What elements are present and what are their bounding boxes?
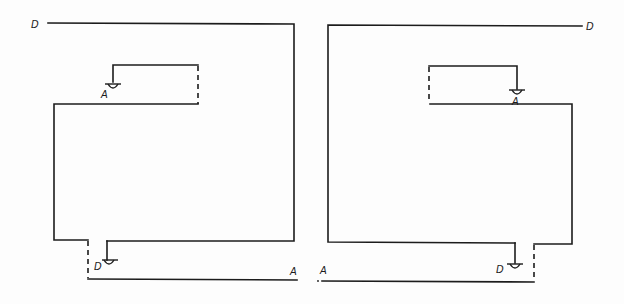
right-middle-path xyxy=(430,104,572,244)
label-left-bottom-symbol: D xyxy=(94,261,102,272)
label-right-bottom-symbol: D xyxy=(496,264,504,275)
right-figure: D A D A xyxy=(317,21,594,282)
ground-terminal-icon xyxy=(105,84,121,88)
right-outer-path xyxy=(328,25,582,243)
left-middle-path xyxy=(54,104,198,240)
junction-dot xyxy=(317,280,319,282)
left-outer-path xyxy=(48,23,294,241)
right-inner-path xyxy=(429,66,517,89)
label-right-top-end: D xyxy=(586,21,594,32)
left-bottom-line xyxy=(88,279,297,280)
left-figure: D A D A xyxy=(31,19,297,280)
wiring-diagram: D A D A D A D A xyxy=(0,0,624,304)
left-inner-path xyxy=(113,65,198,82)
label-right-inner-symbol: A xyxy=(511,96,519,107)
label-left-bottom-end: A xyxy=(289,266,297,277)
ground-terminal-icon xyxy=(509,90,525,94)
label-right-bottom-start: A xyxy=(319,265,327,276)
ground-terminal-icon xyxy=(102,260,118,264)
ground-terminal-icon xyxy=(507,264,523,268)
label-left-top-start: D xyxy=(31,19,39,30)
right-bottom-line xyxy=(322,281,534,282)
label-left-inner-symbol: A xyxy=(100,89,108,100)
